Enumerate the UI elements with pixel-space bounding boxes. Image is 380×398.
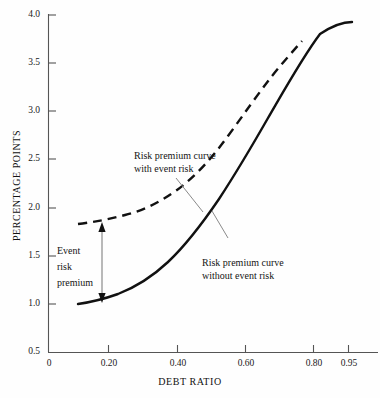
y-axis-title: PERCENTAGE POINTS (11, 126, 22, 246)
label-without-event-risk: Risk premium curve without event risk (202, 257, 284, 282)
leader-line-with-event-risk (176, 178, 203, 212)
x-axis-ticks (109, 345, 349, 353)
label-event-risk-premium: Event risk premium (57, 243, 93, 291)
event-risk-premium-arrow (98, 222, 105, 303)
y-tick-label-1-5: 1.5 (14, 250, 40, 260)
y-tick-label-4-0: 4.0 (14, 9, 40, 19)
label-without-event-risk-line2: without event risk (202, 270, 284, 283)
x-axis-title: DEBT RATIO (0, 376, 380, 387)
label-with-event-risk-line1: Risk premium curve (134, 150, 216, 163)
y-tick-label-1-0: 1.0 (14, 298, 40, 308)
x-tick-label-0-95: 0.95 (331, 358, 367, 368)
risk-premium-chart: 4.0 3.5 3.0 2.5 2.0 1.5 1.0 0.5 0 0.20 0… (0, 0, 380, 398)
label-without-event-risk-line1: Risk premium curve (202, 257, 284, 270)
x-tick-label-0-60: 0.60 (228, 358, 264, 368)
chart-plot-area (0, 0, 380, 398)
y-axis-ticks (49, 15, 57, 304)
x-tick-label-0-80: 0.80 (296, 358, 332, 368)
series-with-event-risk (78, 41, 302, 224)
x-tick-label-0-40: 0.40 (160, 358, 196, 368)
label-event-risk-premium-line3: premium (57, 275, 93, 291)
label-with-event-risk-line2: with event risk (134, 163, 216, 176)
label-event-risk-premium-line2: risk (57, 259, 93, 275)
label-event-risk-premium-line1: Event (57, 243, 93, 259)
leader-line-without-event-risk (212, 211, 228, 238)
y-tick-label-3-5: 3.5 (14, 57, 40, 67)
y-tick-label-0-5: 0.5 (14, 346, 40, 356)
y-tick-label-3-0: 3.0 (14, 105, 40, 115)
x-tick-label-0: 0 (31, 358, 67, 368)
x-tick-label-0-20: 0.20 (91, 358, 127, 368)
label-with-event-risk: Risk premium curve with event risk (134, 150, 216, 175)
